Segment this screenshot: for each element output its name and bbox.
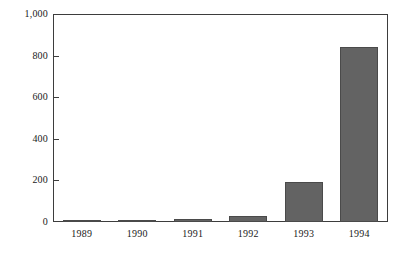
bar-chart: 02004006008001,000 198919901991199219931…	[0, 0, 406, 254]
x-axis-labels: 198919901991199219931994	[54, 228, 387, 246]
bar-1994	[340, 47, 378, 222]
x-tick-label: 1991	[165, 228, 221, 240]
bar-1992	[229, 216, 267, 222]
y-tick-label: 400	[2, 134, 48, 144]
y-tick-label: 0	[2, 217, 48, 227]
x-tick-label: 1990	[110, 228, 166, 240]
bar-1990	[118, 220, 156, 222]
y-tick-label: 600	[2, 92, 48, 102]
x-tick-label: 1992	[221, 228, 277, 240]
y-tick-label: 200	[2, 175, 48, 185]
y-tick-label: 1,000	[2, 9, 48, 19]
y-axis-labels: 02004006008001,000	[0, 0, 48, 254]
x-tick-label: 1993	[276, 228, 332, 240]
bar-1993	[285, 182, 323, 222]
bar-1989	[63, 220, 101, 222]
x-tick-label: 1989	[54, 228, 110, 240]
x-tick-label: 1994	[332, 228, 388, 240]
y-tick-label: 800	[2, 51, 48, 61]
bar-series	[54, 15, 387, 222]
bar-1991	[174, 219, 212, 222]
